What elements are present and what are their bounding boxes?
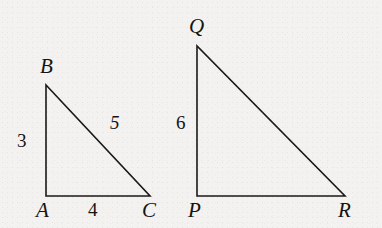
- vertex-label-r: R: [338, 200, 351, 221]
- side-length-pq: 6: [176, 113, 186, 132]
- vertex-label-b: B: [40, 56, 53, 77]
- side-length-ab: 3: [17, 131, 27, 150]
- vertex-label-c: C: [142, 200, 156, 221]
- vertex-label-p: P: [188, 200, 201, 221]
- vertex-label-q: Q: [189, 16, 204, 37]
- triangle-abc-outline: [46, 85, 150, 196]
- side-length-ac: 4: [88, 200, 98, 219]
- vertex-label-a: A: [36, 200, 49, 221]
- triangle-pqr-outline: [197, 46, 345, 196]
- side-length-bc: 5: [110, 113, 120, 132]
- geometry-figure: B A C 3 4 5 Q P R 6: [0, 0, 382, 228]
